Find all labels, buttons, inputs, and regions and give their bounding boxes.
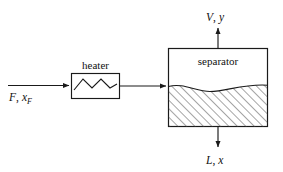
liquid-composition-symbol: x (217, 154, 224, 166)
vapor-composition-symbol: y (218, 11, 225, 24)
liquid-stream-label: L,x (205, 154, 224, 167)
process-flow-diagram: heater separator F,xF V,y L,x (0, 0, 283, 172)
liquid-flow-symbol: L (205, 154, 212, 166)
separator-label: separator (198, 55, 239, 67)
feed-stream-label: F,xF (8, 91, 32, 106)
vapor-stream-label: V,y (206, 11, 225, 24)
flow-diagram-canvas: heater separator F,xF V,y L,x (0, 0, 283, 172)
feed-label-comma: , (16, 91, 19, 104)
heater-label: heater (82, 59, 109, 71)
feed-composition-subscript: F (26, 97, 32, 106)
vapor-label-comma: , (213, 11, 216, 24)
liquid-label-comma: , (212, 154, 215, 167)
heater-box (72, 74, 120, 99)
